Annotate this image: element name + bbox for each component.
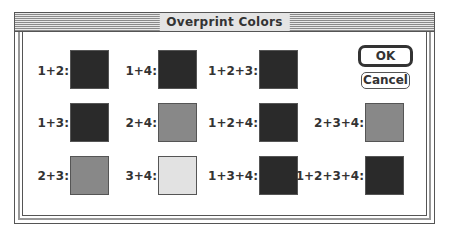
color-swatch-1-2-3[interactable]	[259, 50, 298, 89]
color-swatch-2-4[interactable]	[158, 103, 197, 142]
color-swatch-1-2-4[interactable]	[259, 103, 298, 142]
swatch-label-1-2-3: 1+2+3:	[195, 64, 258, 78]
swatch-label-1-4: 1+4:	[115, 64, 157, 78]
swatch-label-2-4: 2+4:	[115, 116, 157, 130]
color-swatch-1-2[interactable]	[70, 50, 109, 89]
overprint-colors-dialog: Overprint Colors 1+2: 1+4: 1+2+3: 1+3: 2…	[14, 12, 435, 224]
color-swatch-1-3[interactable]	[70, 103, 109, 142]
swatch-label-1-3: 1+3:	[15, 116, 69, 130]
swatch-label-1-2-3-4: 1+2+3+4:	[295, 169, 364, 183]
swatch-label-2-3-4: 2+3+4:	[300, 116, 364, 130]
color-swatch-2-3-4[interactable]	[365, 103, 404, 142]
cancel-button[interactable]: Cancel	[361, 72, 410, 89]
swatch-label-1-3-4: 1+3+4:	[195, 169, 258, 183]
title-bar[interactable]: Overprint Colors	[15, 13, 434, 32]
dialog-title: Overprint Colors	[159, 13, 289, 31]
color-swatch-1-2-3-4[interactable]	[365, 156, 404, 195]
swatch-label-3-4: 3+4:	[115, 169, 157, 183]
swatch-label-1-2-4: 1+2+4:	[195, 116, 258, 130]
color-swatch-1-4[interactable]	[158, 50, 197, 89]
color-swatch-2-3[interactable]	[70, 156, 109, 195]
color-swatch-1-3-4[interactable]	[259, 156, 298, 195]
swatch-label-1-2: 1+2:	[15, 64, 69, 78]
swatch-label-2-3: 2+3:	[15, 169, 69, 183]
ok-button[interactable]: OK	[358, 45, 413, 67]
color-swatch-3-4[interactable]	[158, 156, 197, 195]
